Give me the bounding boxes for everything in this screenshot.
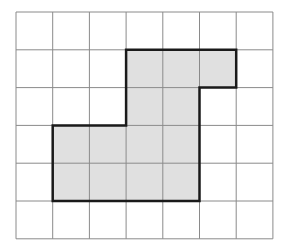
shaded-cell xyxy=(163,125,200,163)
shaded-cell xyxy=(126,88,163,126)
shaded-cell xyxy=(89,125,126,163)
shaded-cell xyxy=(89,163,126,201)
shaded-cell xyxy=(126,125,163,163)
shaded-cell xyxy=(126,50,163,88)
grid-diagram xyxy=(0,0,285,250)
shaded-cell xyxy=(163,50,200,88)
shaded-cell xyxy=(163,163,200,201)
shaded-cell xyxy=(200,50,237,88)
shaded-cell xyxy=(163,88,200,126)
shaded-cell xyxy=(126,163,163,201)
shaded-cell xyxy=(53,125,90,163)
shaded-cell xyxy=(53,163,90,201)
